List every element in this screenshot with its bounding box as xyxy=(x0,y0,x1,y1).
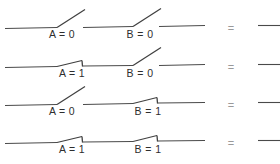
diagram-canvas: A = 0 B = 0 = A = 1 B = 0 = A = 0 xyxy=(0,0,280,164)
row-1-switch-a-label: A = 0 xyxy=(49,28,75,40)
row-1-switch-b-blade-open xyxy=(133,9,161,27)
switch-row-3: A = 0 B = 1 = xyxy=(5,87,280,118)
row-3-switch-b-label: B = 1 xyxy=(135,105,162,117)
row-2-switch-b-blade-open xyxy=(133,48,161,66)
row-4-switch-a-label: A = 1 xyxy=(59,143,85,155)
row-2-mid-wire xyxy=(83,66,134,67)
row-2-switch-a-blade-closed xyxy=(57,61,82,67)
row-1-right-wire xyxy=(159,26,205,27)
row-1-mid-wire xyxy=(83,27,133,28)
row-4-mid-wire xyxy=(83,142,134,143)
row-3-equals-sign: = xyxy=(228,99,235,111)
row-2-right-wire xyxy=(159,65,205,66)
switch-row-1: A = 0 B = 0 = xyxy=(5,9,280,41)
switch-row-4: A = 1 B = 1 = xyxy=(5,136,280,156)
row-3-switch-b-contact xyxy=(157,98,158,104)
row-4-switch-a-blade-closed xyxy=(57,137,82,143)
row-3-switch-a-blade-open xyxy=(57,87,85,105)
row-2-left-wire xyxy=(5,67,57,68)
row-4-switch-b-blade-closed xyxy=(133,136,157,142)
row-4-left-wire xyxy=(5,143,57,144)
row-4-switch-b-label: B = 1 xyxy=(135,143,162,155)
row-3-switch-a-label: A = 0 xyxy=(49,105,75,117)
row-1-switch-b-label: B = 0 xyxy=(127,28,154,40)
row-1-switch-a-blade-open xyxy=(57,10,85,28)
row-4-switch-a-contact xyxy=(82,137,83,143)
row-2-switch-a-contact xyxy=(82,61,83,67)
row-2-equals-sign: = xyxy=(228,61,235,73)
row-4-equals-sign: = xyxy=(228,137,235,149)
row-2-switch-a-label: A = 1 xyxy=(59,67,85,79)
row-1-equals-sign: = xyxy=(228,22,235,34)
row-3-mid-wire xyxy=(83,104,133,105)
switch-row-2: A = 1 B = 0 = xyxy=(5,48,280,80)
row-4-switch-b-contact xyxy=(157,136,158,142)
row-3-right-wire xyxy=(158,103,206,104)
row-4-right-wire xyxy=(158,141,206,142)
row-2-switch-b-label: B = 0 xyxy=(127,67,154,79)
row-3-switch-b-blade-closed xyxy=(133,98,157,104)
series-switch-diagram: A = 0 B = 0 = A = 1 B = 0 = A = 0 xyxy=(0,0,280,164)
